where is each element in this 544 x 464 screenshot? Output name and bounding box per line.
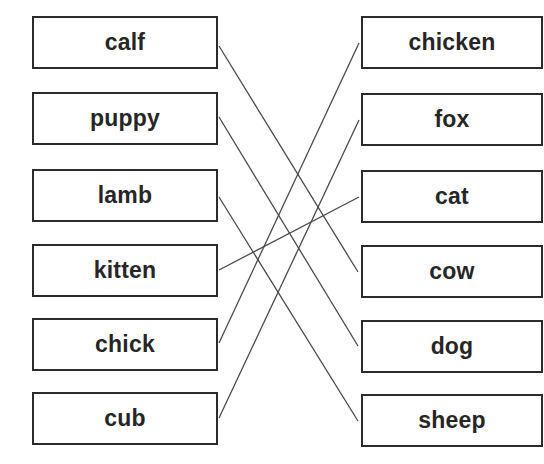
left-box-label: puppy [90, 105, 160, 132]
left-box-label: kitten [94, 257, 157, 284]
connector-cub-fox [219, 120, 359, 418]
right-box-chicken[interactable]: chicken [361, 16, 543, 69]
right-box-label: fox [434, 106, 469, 133]
connector-calf-cow [219, 46, 358, 272]
right-box-label: cow [429, 258, 474, 285]
right-box-cat[interactable]: cat [361, 170, 543, 223]
right-box-label: cat [435, 183, 469, 210]
left-box-label: lamb [98, 182, 152, 209]
left-box-label: chick [95, 331, 155, 358]
right-box-fox[interactable]: fox [361, 93, 543, 146]
left-box-lamb[interactable]: lamb [32, 169, 218, 222]
right-box-label: dog [431, 333, 474, 360]
left-box-cub[interactable]: cub [32, 392, 218, 445]
connector-chick-chicken [219, 43, 359, 343]
connector-puppy-dog [219, 117, 358, 346]
left-box-label: calf [105, 29, 145, 56]
right-box-cow[interactable]: cow [361, 245, 543, 298]
left-box-calf[interactable]: calf [32, 16, 218, 69]
left-box-chick[interactable]: chick [32, 318, 218, 371]
right-box-label: chicken [408, 29, 495, 56]
right-box-dog[interactable]: dog [361, 320, 543, 373]
right-box-label: sheep [418, 407, 485, 434]
left-box-label: cub [104, 405, 146, 432]
connector-lamb-sheep [219, 197, 358, 421]
connector-kitten-cat [219, 197, 359, 270]
right-box-sheep[interactable]: sheep [361, 394, 543, 447]
left-box-puppy[interactable]: puppy [32, 92, 218, 145]
left-box-kitten[interactable]: kitten [32, 244, 218, 297]
matching-diagram: calf puppy lamb kitten chick cub chicken… [0, 0, 544, 464]
